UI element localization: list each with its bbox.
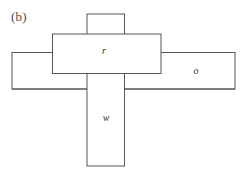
rectangles-diagram (0, 0, 244, 179)
rect-label-o: o (194, 66, 199, 76)
rect-label-r: r (102, 46, 106, 56)
figure-panel: (b) r o w (0, 0, 244, 179)
rect-r (53, 34, 162, 74)
rect-label-w: w (103, 113, 110, 123)
